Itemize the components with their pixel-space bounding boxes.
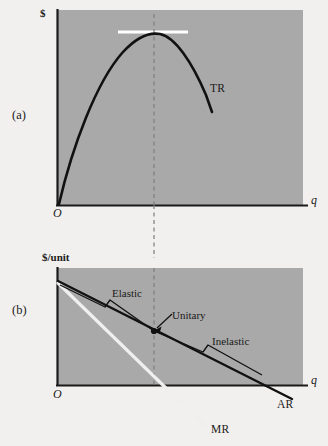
panel-a-plot-area [57, 10, 303, 205]
panel-a-y-axis-label: $ [40, 8, 46, 19]
panel-b-group [56, 267, 308, 427]
panel-b-label: (b) [12, 304, 27, 317]
panel-b-x-axis-label: q [311, 374, 317, 386]
panel-a-x-axis-label: q [311, 194, 317, 206]
unitary-region-label: Unitary [172, 310, 206, 321]
tr-curve-label: TR [210, 83, 225, 95]
ar-curve-label: AR [277, 399, 294, 411]
inelastic-region-label: Inelastic [212, 336, 249, 347]
elastic-region-label: Elastic [112, 288, 142, 299]
panel-a-label: (a) [12, 109, 26, 122]
diagram-svg [0, 0, 328, 446]
panel-b-y-axis-label: $/unit [42, 252, 70, 263]
panel-b-origin-label: O [53, 388, 62, 400]
mr-curve-label: MR [211, 424, 230, 436]
figure-canvas: (a) $ q O TR (b) $/unit q O Elastic Unit… [0, 0, 328, 446]
panel-a-group [56, 9, 308, 206]
panel-b-plot-area [57, 268, 303, 385]
panel-a-origin-label: O [53, 207, 62, 219]
